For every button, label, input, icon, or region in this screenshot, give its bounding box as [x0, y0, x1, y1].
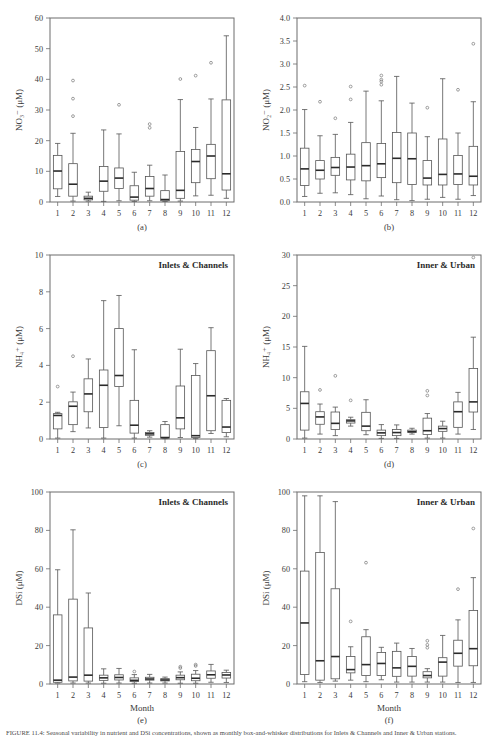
box-1 [300, 346, 309, 438]
y-tick-label: 20 [282, 642, 290, 651]
panel-letter: (b) [384, 222, 394, 232]
box-2 [69, 79, 78, 201]
x-tick-label: 2 [71, 691, 75, 700]
panel-b: 0.00.51.01.52.02.53.03.54.01234567891011… [253, 8, 493, 248]
x-tick-label: 10 [439, 446, 447, 455]
outlier-point [349, 85, 352, 88]
box-6 [130, 172, 139, 201]
outlier-point [118, 103, 121, 106]
x-tick-label: 9 [178, 446, 182, 455]
y-tick-label: 15 [282, 343, 290, 352]
x-tick-label: 4 [349, 209, 353, 218]
figure-caption: FIGURE 11.4: Seasonal variability in nut… [6, 729, 492, 738]
x-tick-label: 11 [454, 209, 462, 218]
box-7 [145, 431, 154, 437]
y-tick-label: 4 [39, 361, 43, 370]
x-tick-label: 2 [318, 691, 322, 700]
x-tick-label: 10 [192, 691, 200, 700]
box-4 [99, 669, 108, 683]
x-tick-label: 11 [207, 209, 215, 218]
outlier-point [334, 374, 337, 377]
x-tick-label: 11 [207, 446, 215, 455]
y-tick-label: 4.0 [280, 14, 290, 23]
y-tick-label: 3.0 [280, 60, 290, 69]
x-tick-label: 2 [71, 446, 75, 455]
x-tick-label: 12 [222, 209, 230, 218]
box-5 [115, 295, 124, 425]
outlier-point [303, 84, 306, 87]
x-tick-label: 12 [222, 691, 230, 700]
box-3 [84, 192, 93, 201]
box-5 [115, 103, 124, 200]
box-9 [176, 349, 185, 437]
y-tick-label: 0 [286, 680, 290, 689]
y-tick-label: 80 [282, 526, 290, 535]
outlier-point [472, 256, 475, 259]
box-11 [454, 588, 463, 683]
y-axis-title: NH₄⁺ (μM) [261, 326, 271, 368]
y-tick-label: 40 [35, 603, 43, 612]
y-tick-label: 0 [39, 680, 43, 689]
boxplot-a: 0102030405060123456789101112NO₃⁻ (μM)(a) [6, 8, 246, 248]
x-tick-label: 9 [425, 446, 429, 455]
box-10 [438, 635, 447, 682]
box-9 [423, 639, 432, 682]
panel-e: 020406080100123456789101112DSi (μM)Inlet… [6, 482, 246, 730]
outlier-point [472, 42, 475, 45]
x-tick-label: 6 [132, 446, 136, 455]
box-11 [207, 61, 216, 195]
panel-c: 0246810123456789101112NH₄⁺ (μM)Inlets & … [6, 245, 246, 485]
panel-group-title: Inner & Urban [417, 260, 475, 270]
outlier-point [334, 117, 337, 120]
figure-container: 0102030405060123456789101112NO₃⁻ (μM)(a)… [0, 0, 497, 738]
y-tick-label: 60 [282, 565, 290, 574]
x-tick-label: 6 [379, 691, 383, 700]
y-tick-label: 3.5 [280, 37, 290, 46]
box-10 [191, 663, 200, 683]
y-tick-label: 80 [35, 526, 43, 535]
panel-group-title: Inner & Urban [417, 497, 475, 507]
x-tick-label: 8 [410, 209, 414, 218]
box-7 [392, 425, 401, 438]
box-10 [438, 79, 447, 198]
x-axis-title: Month [377, 703, 402, 713]
x-tick-label: 1 [56, 446, 60, 455]
y-tick-label: 1.5 [280, 129, 290, 138]
box-8 [161, 175, 170, 201]
y-tick-label: 100 [278, 488, 290, 497]
box-2 [69, 355, 78, 432]
panel-letter: (a) [137, 222, 147, 232]
box-3 [84, 593, 93, 683]
y-tick-label: 8 [39, 288, 43, 297]
box-2 [316, 100, 325, 193]
y-tick-label: 0 [39, 435, 43, 444]
x-tick-label: 8 [163, 691, 167, 700]
x-tick-label: 11 [454, 446, 462, 455]
box-10 [191, 364, 200, 439]
outlier-point [179, 78, 182, 81]
panel-letter: (f) [385, 715, 394, 725]
x-tick-label: 7 [395, 209, 399, 218]
x-tick-label: 3 [333, 446, 337, 455]
boxplot-f: 020406080100123456789101112DSi (μM)Inner… [253, 482, 493, 730]
x-tick-label: 10 [192, 209, 200, 218]
outlier-point [319, 389, 322, 392]
x-tick-label: 11 [454, 691, 462, 700]
x-tick-label: 4 [102, 446, 106, 455]
box-9 [176, 78, 185, 201]
x-tick-label: 3 [86, 446, 90, 455]
x-tick-label: 8 [410, 446, 414, 455]
box-1 [53, 570, 62, 683]
box-3 [331, 117, 340, 193]
y-tick-label: 1.0 [280, 152, 290, 161]
box-7 [392, 643, 401, 682]
x-tick-label: 7 [148, 209, 152, 218]
outlier-point [210, 61, 213, 64]
panel-a: 0102030405060123456789101112NO₃⁻ (μM)(a) [6, 8, 246, 248]
x-tick-label: 9 [178, 691, 182, 700]
x-tick-label: 1 [303, 691, 307, 700]
outlier-point [148, 123, 151, 126]
outlier-point [426, 389, 429, 392]
x-tick-label: 5 [364, 446, 368, 455]
x-tick-label: 7 [395, 446, 399, 455]
